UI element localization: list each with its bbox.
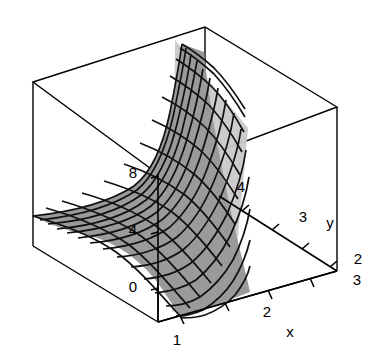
x-tick-3 xyxy=(310,278,314,287)
x-tick-label-2: 2 xyxy=(263,303,271,320)
y-tick-3-5 xyxy=(242,205,249,211)
surface-fill xyxy=(33,44,250,318)
y-tick-2-5 xyxy=(302,243,309,249)
y-tick-3 xyxy=(272,224,279,230)
surface-mesh xyxy=(33,44,250,318)
y-tick-label-3: 3 xyxy=(299,208,307,225)
x-tick-label-3: 3 xyxy=(353,271,361,288)
y-tick-label-4: 4 xyxy=(237,178,245,195)
z-tick-label-4: 4 xyxy=(129,221,137,238)
x-tick-label-1: 1 xyxy=(173,331,181,348)
y-tick-2 xyxy=(330,261,337,267)
y-tick-label-2: 2 xyxy=(354,250,362,267)
z-tick-label-8: 8 xyxy=(129,164,137,181)
x-tick-2 xyxy=(225,303,229,311)
plot-canvas: 8 4 0 4 3 2 1 2 3 x y xyxy=(0,0,380,357)
surface-plot-figure: 8 4 0 4 3 2 1 2 3 x y xyxy=(0,0,380,357)
z-tick-label-0: 0 xyxy=(129,278,137,295)
y-axis-title: y xyxy=(326,214,334,231)
x-tick-2-5 xyxy=(268,290,272,299)
x-axis-title: x xyxy=(286,323,294,340)
